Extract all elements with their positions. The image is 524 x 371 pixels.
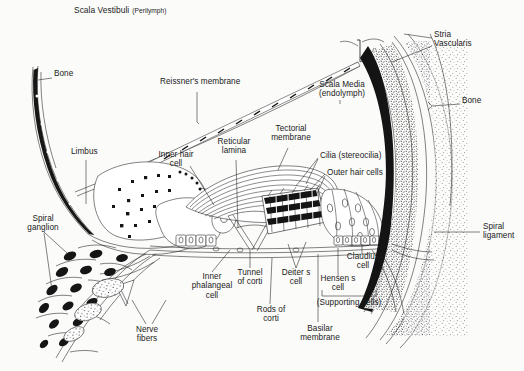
label-basilar-membrane: Basilarmembrane (292, 324, 348, 343)
label-inner-hair-cell: Inner haircell (150, 150, 202, 169)
label-scala-media: Scala Media(endolymph) (313, 80, 371, 99)
label-tectorial-membrane: Tectorialmembrane (263, 124, 319, 143)
label-cilia-stereocilia: Cilia (stereocilia) (320, 151, 381, 160)
label-inner-phalangeal-cell: Innerphalangealcell (182, 272, 242, 300)
label-spiral-ganglion: Spiralganglion (14, 214, 72, 233)
label-hensens-cell: Hensen scell (313, 274, 363, 293)
label-nerve-fibers: Nervefibers (126, 325, 168, 344)
label-spiral-ligament: Spiralligament (483, 222, 514, 241)
label-stria-vascularis: StriaVascularis (434, 30, 472, 49)
label-bone-right: Bone (462, 96, 481, 105)
label-reissners-membrane: Reissner's membrane (160, 77, 240, 86)
label-claudius-cell: Claudiuscell (338, 252, 388, 271)
label-bone-left: Bone (54, 69, 73, 78)
label-rods-of-corti: Rods ofcorti (249, 305, 293, 324)
label-limbus: Limbus (71, 147, 98, 156)
label-reticular-lamina: Reticularlamina (209, 137, 259, 156)
label-scala-vestibuli: Scala Vestibuli(Perilymph) (74, 6, 167, 15)
label-supporting-cells: (Supporting cells) (304, 298, 394, 307)
label-outer-hair-cells: Outer hair cells (327, 168, 383, 177)
